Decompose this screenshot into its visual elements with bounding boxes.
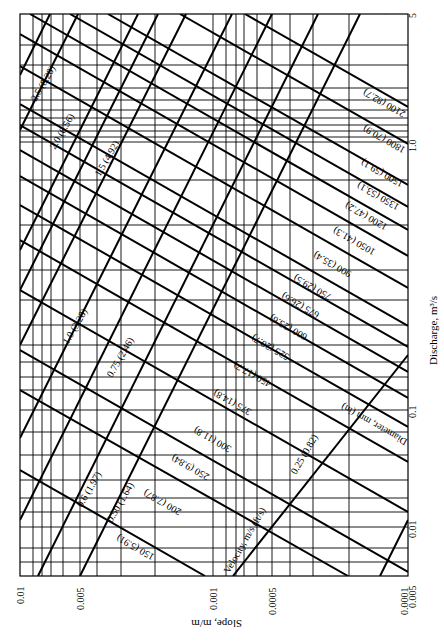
slope-tick-0.001: 0.001 — [208, 588, 219, 611]
slope-axis-title: Slope, m/m — [191, 618, 242, 630]
slope-axis-ticks: 0.01 0.005 0.001 0.0005 0.0001 — [15, 587, 410, 616]
slope-tick-0.01: 0.01 — [15, 587, 26, 605]
discharge-axis-title: Discharge, m³/s — [427, 296, 439, 365]
slope-tick-0.0005: 0.0005 — [267, 588, 278, 616]
velocity-label-0.6: 0.6 (1.97) — [74, 470, 104, 510]
discharge-tick-0.01: 0.01 — [407, 521, 418, 539]
diameter-label-200: 200 (7.87) — [141, 487, 183, 518]
diameter-labels: 150 (5.91) 200 (7.87) 250 (9.84) 300 (11… — [114, 86, 409, 563]
pipe-flow-nomograph: 2.5 (8.20) 2.0 (6.56) 1.5 (4.92) 1.0 (3.… — [0, 0, 444, 641]
diameter-label-450: 450 (17.7) — [231, 359, 273, 390]
diameter-label-600: 600 (23.6) — [267, 312, 309, 343]
discharge-tick-5: 5 — [407, 13, 418, 18]
diameter-label-525: 525 (20.7) — [249, 332, 291, 363]
slope-tick-0.005: 0.005 — [75, 588, 86, 611]
diameter-label-1050: 1050 (41.3) — [331, 224, 377, 258]
diameter-lines — [20, 14, 408, 576]
discharge-axis-ticks: 0.005 0.01 0.1 1.0 5 — [407, 13, 418, 608]
velocity-label-0.50: 0.50 (1.64) — [104, 480, 136, 524]
discharge-tick-0.005: 0.005 — [407, 586, 418, 609]
discharge-tick-1.0: 1.0 — [407, 140, 418, 153]
discharge-tick-0.1: 0.1 — [407, 406, 418, 419]
